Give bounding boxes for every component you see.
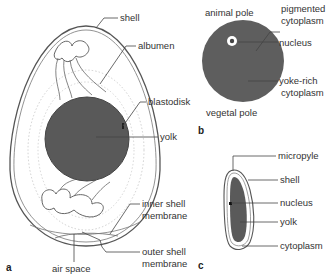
label-outer-shell-membrane-2: membrane bbox=[142, 258, 187, 269]
label-yoke-rich-1: yoke-rich bbox=[279, 75, 318, 86]
insect-nucleus bbox=[229, 202, 232, 205]
panel-b-frog-egg: animal pole pigmented cytoplasm nucleus … bbox=[198, 3, 325, 136]
label-blastodisk: blastodisk bbox=[148, 96, 190, 107]
label-yoke-rich-2: cytoplasm bbox=[281, 87, 324, 98]
yolk bbox=[45, 97, 129, 181]
egg-diagram: shell albumen blastodisk yolk inner shel… bbox=[0, 0, 334, 279]
label-micropyle: micropyle bbox=[278, 150, 319, 161]
label-albumen: albumen bbox=[138, 40, 174, 51]
label-animal-pole: animal pole bbox=[205, 7, 254, 18]
label-yolk-a: yolk bbox=[160, 131, 177, 142]
label-nucleus-c: nucleus bbox=[280, 197, 313, 208]
panel-label-c: c bbox=[198, 260, 204, 271]
label-cytoplasm-c: cytoplasm bbox=[280, 240, 323, 251]
label-air-space: air space bbox=[52, 263, 91, 274]
panel-c-insect-egg: micropyle shell nucleus yolk cytoplasm c bbox=[198, 150, 323, 271]
label-vegetal-pole: vegetal pole bbox=[206, 107, 257, 118]
panel-label-a: a bbox=[6, 262, 12, 273]
label-yolk-c: yolk bbox=[280, 216, 297, 227]
label-inner-shell-membrane-1: inner shell bbox=[142, 198, 185, 209]
label-shell-c: shell bbox=[280, 174, 300, 185]
label-outer-shell-membrane-1: outer shell bbox=[142, 246, 186, 257]
panel-label-b: b bbox=[198, 125, 204, 136]
label-pigmented-2: cytoplasm bbox=[281, 15, 324, 26]
label-nucleus-b: nucleus bbox=[279, 37, 312, 48]
label-inner-shell-membrane-2: membrane bbox=[142, 210, 187, 221]
label-pigmented-1: pigmented bbox=[281, 3, 325, 14]
panel-a-bird-egg: shell albumen blastodisk yolk inner shel… bbox=[6, 12, 190, 274]
label-shell-a: shell bbox=[120, 12, 140, 23]
